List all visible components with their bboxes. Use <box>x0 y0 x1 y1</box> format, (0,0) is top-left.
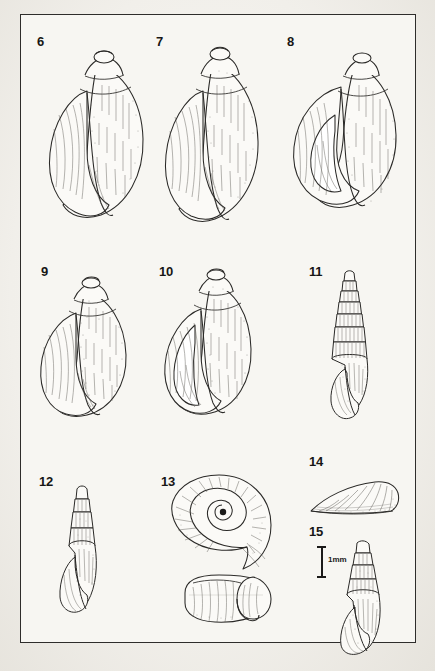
scale-bar-cap-top <box>317 546 326 548</box>
shell-figure-8 <box>283 49 407 217</box>
figure-number-15: 15 <box>309 525 323 538</box>
scale-bar-label: 1mm <box>328 555 347 564</box>
scale-bar: 1mm <box>317 546 351 578</box>
shell-figure-13 <box>163 467 285 639</box>
scale-bar-cap-bottom <box>317 576 326 578</box>
shell-figure-11 <box>321 269 377 429</box>
figure-number-13: 13 <box>161 475 175 488</box>
shell-figure-12 <box>53 483 113 615</box>
shell-figure-6 <box>39 45 151 231</box>
figure-number-8: 8 <box>287 35 294 48</box>
figure-number-10: 10 <box>159 265 173 278</box>
plate-frame: 6 <box>20 14 416 643</box>
figure-number-9: 9 <box>41 265 48 278</box>
figure-number-12: 12 <box>39 475 53 488</box>
scale-bar-line <box>321 546 323 578</box>
shell-figure-9 <box>29 273 135 419</box>
figure-number-11: 11 <box>309 265 322 278</box>
shell-figure-10 <box>151 267 261 417</box>
illustration-plate: 6 <box>0 0 435 671</box>
shell-figure-7 <box>153 41 267 233</box>
figure-number-7: 7 <box>156 35 163 48</box>
shell-figure-14 <box>303 477 411 521</box>
figure-number-6: 6 <box>37 35 44 48</box>
figure-number-14: 14 <box>309 455 323 468</box>
